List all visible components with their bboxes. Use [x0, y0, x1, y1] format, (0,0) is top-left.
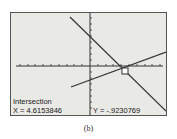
increasing-line [71, 52, 166, 87]
intersection-title: Intersection [13, 98, 52, 106]
x-readout: X = 4.6153846 [13, 107, 62, 115]
intersection-cursor [122, 68, 128, 74]
figure-caption: (b) [0, 124, 177, 133]
y-readout: Y = -.9230769 [93, 107, 140, 115]
calculator-screen: Intersection X = 4.6153846 Y = -.9230769 [10, 12, 167, 116]
